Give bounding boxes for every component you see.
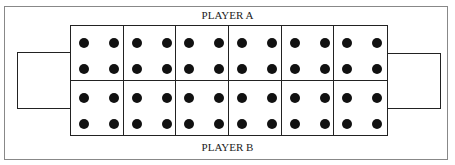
seed bbox=[132, 64, 142, 74]
pit-player-b-5 bbox=[282, 81, 335, 136]
seed bbox=[342, 119, 352, 129]
seed bbox=[132, 119, 142, 129]
seed bbox=[214, 119, 224, 129]
seed bbox=[342, 38, 352, 48]
seed bbox=[267, 38, 277, 48]
seed bbox=[237, 93, 247, 103]
seed bbox=[132, 93, 142, 103]
seed bbox=[237, 38, 247, 48]
seed bbox=[162, 38, 172, 48]
seed bbox=[214, 64, 224, 74]
seed bbox=[320, 119, 330, 129]
player-b-label: PLAYER B bbox=[0, 141, 455, 153]
left-store bbox=[17, 52, 71, 109]
player-a-label: PLAYER A bbox=[0, 9, 455, 21]
seed bbox=[162, 64, 172, 74]
seed bbox=[214, 38, 224, 48]
mancala-board bbox=[70, 25, 388, 136]
seed bbox=[162, 93, 172, 103]
seed bbox=[267, 93, 277, 103]
seed bbox=[79, 93, 89, 103]
seed bbox=[372, 38, 382, 48]
seed bbox=[267, 64, 277, 74]
seed bbox=[79, 64, 89, 74]
pit-player-a-1 bbox=[71, 26, 124, 81]
pit-player-a-3 bbox=[176, 26, 229, 81]
seed bbox=[237, 119, 247, 129]
seed bbox=[109, 64, 119, 74]
seed bbox=[109, 93, 119, 103]
seed bbox=[162, 119, 172, 129]
right-store bbox=[387, 53, 441, 109]
seed bbox=[290, 93, 300, 103]
seed bbox=[342, 93, 352, 103]
seed bbox=[342, 64, 352, 74]
pit-player-a-4 bbox=[229, 26, 282, 81]
seed bbox=[372, 119, 382, 129]
seed bbox=[372, 93, 382, 103]
seed bbox=[290, 64, 300, 74]
pit-player-a-2 bbox=[124, 26, 177, 81]
pit-player-b-3 bbox=[176, 81, 229, 136]
seed bbox=[79, 38, 89, 48]
pit-player-b-2 bbox=[124, 81, 177, 136]
seed bbox=[184, 119, 194, 129]
seed bbox=[320, 38, 330, 48]
seed bbox=[132, 38, 142, 48]
pit-player-a-6 bbox=[334, 26, 387, 81]
seed bbox=[184, 38, 194, 48]
seed bbox=[290, 119, 300, 129]
seed bbox=[290, 38, 300, 48]
seed bbox=[214, 93, 224, 103]
seed bbox=[237, 64, 247, 74]
seed bbox=[320, 93, 330, 103]
pit-player-b-1 bbox=[71, 81, 124, 136]
seed bbox=[320, 64, 330, 74]
seed bbox=[184, 93, 194, 103]
pit-player-a-5 bbox=[282, 26, 335, 81]
seed bbox=[372, 64, 382, 74]
seed bbox=[109, 38, 119, 48]
seed bbox=[79, 119, 89, 129]
seed bbox=[267, 119, 277, 129]
seed bbox=[184, 64, 194, 74]
pit-player-b-6 bbox=[334, 81, 387, 136]
seed bbox=[109, 119, 119, 129]
pit-player-b-4 bbox=[229, 81, 282, 136]
